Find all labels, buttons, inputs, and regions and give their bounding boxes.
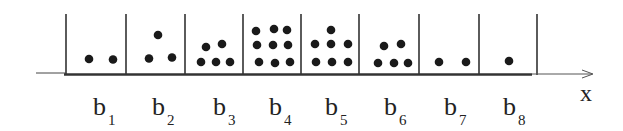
bin-label-6: b6 [384, 94, 407, 124]
data-dots [85, 25, 514, 68]
x-axis-label: x [580, 80, 592, 107]
bin-label-2: b2 [152, 94, 175, 124]
bin-label-1: b1 [93, 94, 116, 124]
bin-label-8: b8 [503, 94, 526, 124]
bin-label-7: b7 [444, 94, 467, 124]
bin-label-5: b5 [325, 94, 348, 124]
bin-label-3: b3 [213, 94, 236, 124]
bin-label-4: b4 [269, 94, 292, 124]
x-axis [36, 70, 593, 78]
